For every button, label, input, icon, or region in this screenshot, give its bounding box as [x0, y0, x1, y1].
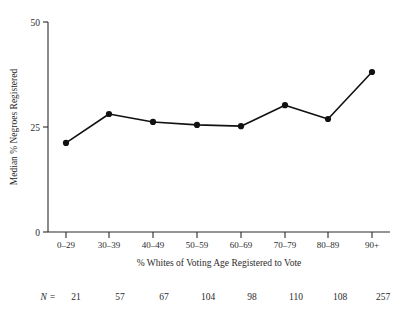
line-chart-plot: 50 25 0 0–29 30–39 40–49 50–59 60–69 70–… [0, 0, 405, 318]
data-point [194, 122, 200, 128]
n-value-4: 98 [247, 292, 257, 302]
y-axis-title: Median % Negroes Registered [9, 69, 19, 186]
data-point [282, 102, 288, 108]
y-tick-label-25: 25 [31, 123, 41, 133]
data-line [66, 72, 372, 143]
n-value-0: 21 [71, 292, 81, 302]
x-tick-label-5: 70–79 [274, 240, 297, 250]
x-tick-label-4: 60–69 [230, 240, 253, 250]
x-tick-label-6: 80–89 [317, 240, 340, 250]
y-tick-label-50: 50 [31, 18, 41, 28]
x-tick-label-2: 40–49 [142, 240, 165, 250]
n-value-5: 110 [289, 292, 303, 302]
x-tick-label-3: 50–59 [186, 240, 209, 250]
n-value-6: 108 [333, 292, 348, 302]
x-axis-title: % Whites of Voting Age Registered to Vot… [137, 258, 302, 268]
n-value-1: 57 [115, 292, 125, 302]
chart-figure: 50 25 0 0–29 30–39 40–49 50–59 60–69 70–… [0, 0, 405, 318]
data-point [150, 119, 156, 125]
data-point [63, 140, 69, 146]
data-point [106, 111, 112, 117]
x-tick-label-1: 30–39 [98, 240, 121, 250]
data-point [369, 69, 375, 75]
n-value-3: 104 [201, 292, 216, 302]
n-row-label: N = [39, 292, 55, 302]
x-tick-marks [66, 232, 372, 238]
n-value-7: 257 [376, 292, 391, 302]
y-tick-marks [43, 22, 48, 232]
data-point [325, 116, 331, 122]
x-tick-label-7: 90+ [365, 240, 379, 250]
n-value-2: 67 [159, 292, 169, 302]
x-tick-label-0: 0–29 [57, 240, 76, 250]
data-point [238, 123, 244, 129]
data-point-group [63, 69, 375, 146]
y-tick-label-0: 0 [35, 228, 40, 238]
